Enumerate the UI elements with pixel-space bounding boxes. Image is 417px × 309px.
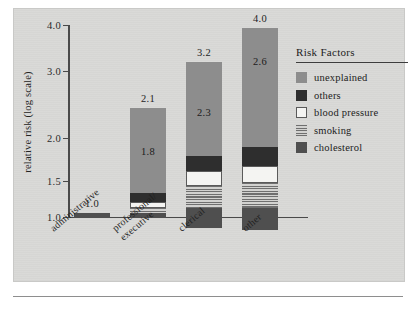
segment-blood-pressure	[242, 166, 278, 183]
bar-total-label-other: 4.0	[253, 13, 267, 24]
segment-unexplained	[242, 28, 278, 147]
y-axis-label: relative risk (log scale)	[19, 52, 35, 192]
bar-total-label-professional-executive: 2.1	[141, 93, 155, 104]
legend-label-cholesterol: cholesterol	[314, 142, 362, 153]
plot-area: 1.0 1.8 2.1 2.3 3.2	[68, 25, 278, 218]
legend-swatch-others-icon	[296, 90, 307, 101]
legend-item-smoking[interactable]: smoking	[296, 125, 408, 136]
legend-item-blood-pressure[interactable]: blood pressure	[296, 107, 408, 118]
legend-swatch-cholesterol-icon	[296, 142, 307, 153]
bar-unexplained-label-clerical: 2.3	[197, 107, 211, 118]
segment-cholesterol	[74, 213, 110, 218]
legend-swatch-blood-pressure-icon	[296, 107, 307, 118]
figure-chart: relative risk (log scale) 4.0 3.0 2.0 1.…	[0, 0, 417, 309]
bar-other[interactable]: 2.6 4.0	[242, 28, 278, 218]
bar-clerical[interactable]: 2.3 3.2	[186, 62, 222, 218]
y-tick-label-3: 3.0	[47, 65, 61, 76]
segment-others	[186, 156, 222, 171]
legend-swatch-unexplained-icon	[296, 72, 307, 83]
legend-divider	[296, 62, 408, 63]
y-tick-label-2: 2.0	[47, 133, 61, 144]
bar-unexplained-label-other: 2.6	[253, 56, 267, 67]
page-divider-rule	[13, 296, 403, 297]
legend-title: Risk Factors	[296, 46, 408, 58]
bar-unexplained-label-professional-executive: 1.8	[141, 146, 155, 157]
legend-item-others[interactable]: others	[296, 90, 408, 101]
y-tick-label-1p5: 1.5	[47, 176, 61, 187]
segment-blood-pressure	[186, 171, 222, 186]
legend: Risk Factors unexplained others blood pr…	[296, 46, 408, 160]
segment-smoking	[186, 186, 222, 208]
legend-swatch-smoking-icon	[296, 125, 307, 136]
legend-item-cholesterol[interactable]: cholesterol	[296, 142, 408, 153]
bar-administrative[interactable]: 1.0	[74, 213, 110, 218]
legend-label-others: others	[314, 90, 341, 101]
bar-total-label-clerical: 3.2	[197, 47, 211, 58]
legend-item-unexplained[interactable]: unexplained	[296, 72, 408, 83]
legend-label-unexplained: unexplained	[314, 72, 368, 83]
y-axis-label-text: relative risk (log scale)	[22, 71, 33, 173]
segment-others	[242, 147, 278, 166]
y-tick-label-4: 4.0	[47, 20, 61, 31]
legend-label-smoking: smoking	[314, 125, 352, 136]
segment-smoking	[242, 183, 278, 208]
legend-label-blood-pressure: blood pressure	[314, 107, 378, 118]
